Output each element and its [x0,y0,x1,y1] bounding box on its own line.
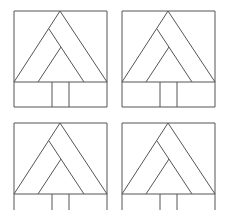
figure-panel-bottom-left [0,112,113,210]
triangle-right-edge [60,123,107,194]
triangle-right-edge [60,11,107,82]
tree-figure-icon [108,112,221,210]
tree-figure-icon [108,0,221,110]
triangle-right-edge [168,11,215,82]
inner-line-1 [49,141,84,194]
tree-figure-icon [0,0,113,110]
inner-line-1 [157,29,192,82]
figure-panel-bottom-right [108,112,221,210]
triangle-left-edge [122,11,168,82]
inner-line-2 [146,47,169,82]
tree-figure-icon [0,112,113,210]
inner-line-2 [38,47,61,82]
figure-panel-top-right [108,0,221,105]
triangle-left-edge [14,11,60,82]
inner-line-2 [38,159,61,194]
figure-panel-top-left [0,0,113,105]
inner-line-1 [157,141,192,194]
triangle-left-edge [122,123,168,194]
triangle-left-edge [14,123,60,194]
inner-line-1 [49,29,84,82]
inner-line-2 [146,159,169,194]
triangle-right-edge [168,123,215,194]
